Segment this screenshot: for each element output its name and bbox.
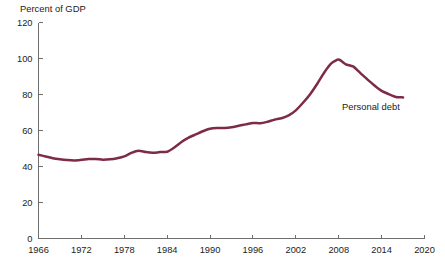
y-axis-tick-label: 60 [22, 126, 32, 136]
x-axis-tick-label: 2014 [371, 245, 392, 255]
x-axis-tick-label: 1996 [243, 245, 264, 255]
y-axis-tick-label: 80 [22, 90, 32, 100]
y-axis-caption: Percent of GDP [20, 3, 86, 14]
x-axis-tick-label: 1990 [200, 245, 221, 255]
y-axis-tick-labels: 020406080100120 [17, 18, 33, 244]
y-axis-tick-label: 0 [27, 234, 32, 244]
x-axis-tick-label: 1972 [71, 245, 92, 255]
x-axis-tick-label: 1978 [114, 245, 135, 255]
y-axis-tick-marks [39, 23, 43, 239]
chart-figure: Percent of GDP 020406080100120 196619721… [0, 0, 445, 263]
series-label-personal-debt: Personal debt [342, 101, 400, 112]
x-axis-tick-label: 2020 [414, 245, 435, 255]
x-axis-tick-marks [39, 235, 425, 239]
x-axis-tick-label: 1984 [157, 245, 178, 255]
series-annotation-layer: Personal debt [342, 101, 400, 112]
x-axis-tick-label: 2002 [285, 245, 306, 255]
y-axis-tick-label: 40 [22, 162, 32, 172]
y-axis-tick-label: 20 [22, 198, 32, 208]
x-axis-tick-label: 1966 [28, 245, 49, 255]
x-axis-tick-label: 2008 [328, 245, 349, 255]
personal-debt-line-chart: Percent of GDP 020406080100120 196619721… [0, 0, 445, 263]
y-axis-tick-label: 100 [17, 54, 33, 64]
y-axis-tick-label: 120 [17, 18, 33, 28]
x-axis-tick-labels: 1966197219781984199019962002200820142020 [28, 245, 435, 255]
